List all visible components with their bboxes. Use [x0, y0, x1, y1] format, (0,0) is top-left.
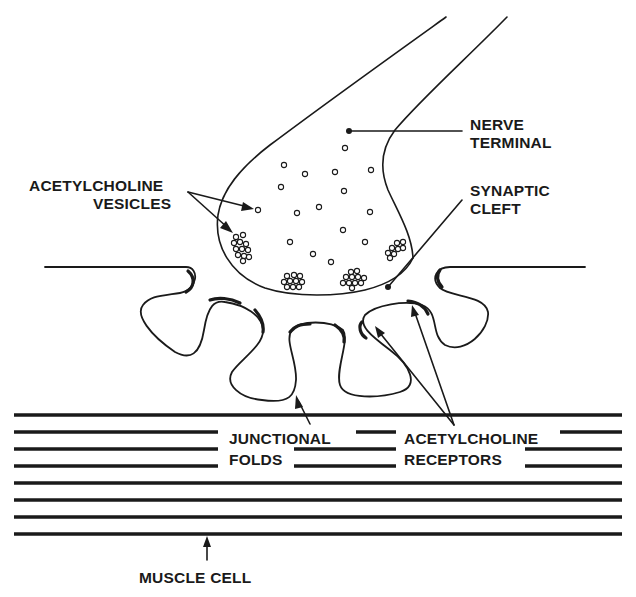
vesicle: [281, 162, 286, 167]
receptor-thickening: [255, 310, 263, 332]
vesicle: [316, 204, 321, 209]
receptor-thickening: [290, 324, 310, 332]
vesicle: [362, 239, 367, 244]
label-nerve-terminal-line2: TERMINAL: [470, 134, 552, 151]
nerve-terminal-dot: [346, 128, 352, 134]
acetylcholine-vesicles: [231, 145, 405, 290]
receptor-thickening: [335, 325, 344, 342]
arrowhead-icon: [203, 536, 211, 547]
arrowhead-icon: [295, 395, 303, 409]
label-synaptic-cleft-line2: CLEFT: [470, 200, 521, 217]
vesicle: [332, 169, 337, 174]
label-acetylcholine-receptors-line2: RECEPTORS: [404, 451, 502, 468]
postsynaptic-membrane: [45, 267, 585, 401]
label-muscle-cell: MUSCLE CELL: [139, 569, 251, 586]
label-synaptic-cleft-line1: SYNAPTIC: [470, 182, 550, 199]
vesicle-cluster-left: [231, 232, 251, 263]
vesicle: [294, 210, 299, 215]
vesicle: [341, 188, 346, 193]
vesicle: [367, 209, 372, 214]
vesicle: [340, 227, 345, 232]
vesicle: [368, 167, 373, 172]
receptor-thickening: [438, 270, 442, 287]
synaptic-cleft-dot: [385, 284, 391, 290]
vesicle: [328, 259, 333, 264]
vesicle-cluster-right: [385, 239, 405, 260]
label-acetylcholine-vesicles-line2: VESICLES: [93, 195, 171, 212]
vesicle-cluster-bottom-left: [281, 272, 304, 289]
label-acetylcholine-vesicles-line1: ACETYLCHOLINE: [29, 177, 163, 194]
receptor-thickening: [408, 301, 428, 314]
receptors-arrow-2: [415, 313, 454, 425]
neuromuscular-junction-diagram: ACETYLCHOLINE VESICLES NERVE TERMINAL SY…: [0, 0, 636, 597]
receptors-arrow-1: [380, 333, 454, 425]
arrowhead-icon: [241, 202, 254, 211]
vesicle: [310, 251, 315, 256]
vesicle: [287, 239, 292, 244]
nerve-terminal-outline-left: [217, 17, 446, 295]
junctional-folds: [45, 267, 585, 401]
vesicle: [255, 207, 260, 212]
arrowhead-icon: [411, 305, 419, 317]
label-junctional-folds-line1: JUNCTIONAL: [229, 430, 331, 447]
vesicle-cluster-bottom-right: [340, 268, 366, 290]
vesicle: [302, 171, 307, 176]
receptor-thickening: [186, 271, 193, 292]
leader-lines: [188, 128, 462, 560]
vesicle: [278, 184, 283, 189]
label-junctional-folds-line2: FOLDS: [229, 451, 283, 468]
label-acetylcholine-receptors-line1: ACETYLCHOLINE: [404, 430, 538, 447]
vesicle: [342, 145, 347, 150]
label-nerve-terminal-line1: NERVE: [470, 116, 524, 133]
nerve-terminal: [217, 17, 507, 295]
